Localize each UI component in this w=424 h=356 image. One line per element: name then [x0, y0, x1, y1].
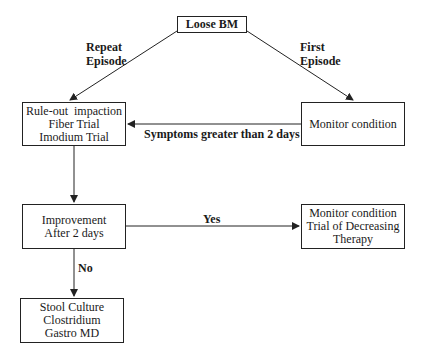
node-stool-line-3: Gastro MD: [45, 327, 99, 340]
node-improvement: Improvement After 2 days: [22, 204, 126, 249]
node-rule-out-line-2: Fiber Trial: [48, 118, 99, 131]
label-first-episode: First Episode: [300, 40, 341, 68]
node-improvement-line-2: After 2 days: [44, 227, 103, 240]
label-symptoms: Symptoms greater than 2 days: [144, 127, 300, 141]
node-improvement-line-1: Improvement: [42, 214, 107, 227]
node-rule-out-line-3: Imodium Trial: [39, 131, 109, 144]
node-monitor-trial: Monitor condition Trial of Decreasing Th…: [301, 204, 405, 249]
node-loose-bm: Loose BM: [177, 16, 247, 33]
node-monitor-trial-line-3: Therapy: [333, 233, 373, 246]
label-first-line-2: Episode: [300, 54, 341, 68]
node-rule-out-line-1: Rule-out impaction: [26, 105, 122, 118]
label-repeat-line-1: Repeat: [86, 40, 127, 54]
label-repeat-episode: Repeat Episode: [86, 40, 127, 68]
node-monitor: Monitor condition: [301, 102, 405, 146]
label-repeat-line-2: Episode: [86, 54, 127, 68]
label-no: No: [78, 261, 93, 275]
node-rule-out: Rule-out impaction Fiber Trial Imodium T…: [22, 102, 126, 146]
node-loose-bm-text: Loose BM: [186, 18, 238, 31]
node-stool: Stool Culture Clostridium Gastro MD: [20, 298, 124, 343]
node-monitor-text: Monitor condition: [309, 118, 397, 131]
label-yes: Yes: [203, 212, 220, 226]
label-first-line-1: First: [300, 40, 341, 54]
